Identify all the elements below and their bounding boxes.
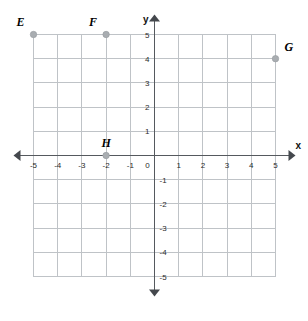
y-tick-label: 2 [145, 103, 150, 112]
y-tick-label: 5 [145, 31, 150, 40]
x-tick-label: -3 [78, 161, 86, 170]
y-tick-label: -5 [160, 273, 168, 282]
y-axis-label: y [143, 14, 149, 25]
point-marker-e[interactable] [30, 31, 36, 37]
point-label-f: F [88, 15, 97, 29]
y-tick-label: 3 [145, 79, 150, 88]
y-axis-top-arrowhead [149, 15, 160, 22]
axis-lines [14, 15, 296, 297]
x-tick-label: -5 [30, 161, 38, 170]
x-axis-right-arrowhead [289, 150, 296, 161]
x-tick-label: 3 [225, 161, 230, 170]
y-tick-label: 4 [145, 55, 150, 64]
point-marker-h[interactable] [103, 152, 109, 158]
y-tick-label: -2 [160, 200, 168, 209]
y-axis-bottom-arrowhead [149, 290, 160, 297]
point-marker-f[interactable] [103, 31, 109, 37]
x-tick-label: -4 [54, 161, 62, 170]
y-tick-label: -1 [160, 176, 168, 185]
point-label-e: E [15, 15, 24, 29]
coordinate-plane-figure: -5-4-3-2-1012345 54321-1-2-3-4-5 x y EFG… [0, 0, 308, 321]
point-marker-g[interactable] [272, 56, 278, 62]
x-tick-label: 5 [273, 161, 278, 170]
x-tick-label: 0 [145, 161, 150, 170]
x-tick-label: -2 [103, 161, 111, 170]
y-tick-label: -4 [160, 248, 168, 257]
x-tick-label: 2 [201, 161, 206, 170]
point-label-g: G [285, 40, 294, 54]
coordinate-plane-svg: -5-4-3-2-1012345 54321-1-2-3-4-5 x y EFG… [0, 0, 308, 321]
y-tick-label: 1 [145, 127, 150, 136]
x-tick-label: -1 [127, 161, 135, 170]
point-label-h: H [100, 136, 111, 150]
x-tick-label: 4 [249, 161, 254, 170]
x-tick-label: 1 [176, 161, 181, 170]
y-tick-label: -3 [160, 224, 168, 233]
x-axis-left-arrowhead [14, 150, 21, 161]
x-axis-label: x [296, 140, 302, 151]
